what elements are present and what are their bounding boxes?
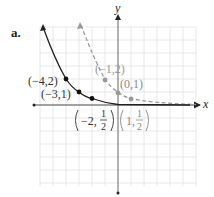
svg-text:1: 1 [101,108,106,119]
label-point-neg1-2: (−1,2) [95,62,125,76]
point-neg2-half [90,96,95,101]
label-point-neg2-half: −2, 1 2 [76,108,114,132]
point-neg3-1 [77,90,82,95]
label-point-0-1: (0,1) [120,77,143,91]
point-0-1 [116,91,121,96]
svg-text:2: 2 [137,121,142,132]
label-point-neg3-1: (−3,1) [41,87,71,101]
svg-text:2: 2 [101,121,106,132]
svg-text:1: 1 [137,108,142,119]
part-label: a. [11,25,21,40]
x-axis-label: x [202,97,209,111]
solid-curve-arrow-icon [40,24,46,31]
svg-text:−2,: −2, [81,114,97,128]
point-neg4-2 [64,77,69,82]
y-axis-label: y [114,1,121,15]
dashed-curve-arrow-icon [77,22,83,29]
y-axis-bottom-end [117,192,120,195]
svg-text:1,: 1, [126,114,135,128]
x-axis-left-end [33,104,36,107]
point-neg1-2 [103,78,108,83]
point-1-half [129,97,134,102]
label-point-neg4-2: (−4,2) [28,74,58,88]
graph: a. y x (−4,2) (−3,1) (−1,2) (0,1) −2, 1 … [0,0,214,197]
